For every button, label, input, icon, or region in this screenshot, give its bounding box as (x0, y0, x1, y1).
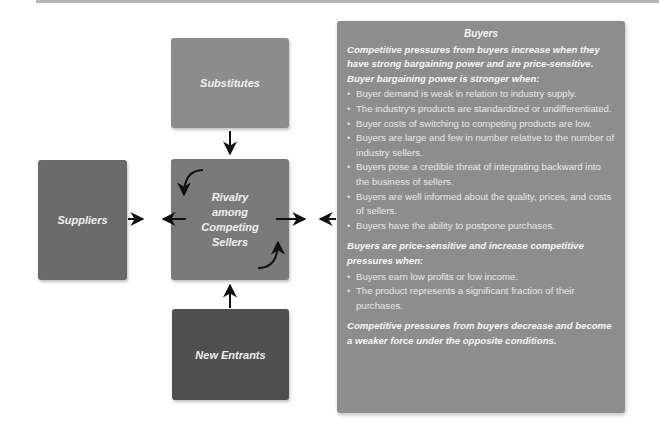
list-item: Buyers are large and few in number relat… (347, 131, 615, 160)
list-item: Buyer demand is weak in relation to indu… (347, 87, 615, 102)
substitutes-label: Substitutes (200, 77, 260, 89)
price-sensitive-heading: Buyers are price-sensitive and increase … (347, 239, 615, 268)
buyers-panel: Buyers Competitive pressures from buyers… (337, 21, 625, 413)
top-divider-bar (36, 0, 659, 3)
price-sensitive-list: Buyers earn low profits or low income. T… (347, 270, 615, 314)
list-item: Buyers have the ability to postpone purc… (347, 219, 615, 234)
list-item: Buyers earn low profits or low income. (347, 270, 615, 285)
list-item: The industry's products are standardized… (347, 102, 615, 117)
suppliers-label: Suppliers (57, 214, 107, 226)
new-entrants-box: New Entrants (172, 309, 289, 400)
list-item: The product represents a significant fra… (347, 284, 615, 313)
buyers-intro: Competitive pressures from buyers increa… (347, 43, 615, 87)
rivalry-box: Rivalry among Competing Sellers (171, 159, 289, 280)
list-item: Buyers are well informed about the quali… (347, 190, 615, 219)
new-entrants-label: New Entrants (195, 349, 265, 361)
buyers-title: Buyers (347, 27, 615, 42)
list-item: Buyer costs of switching to competing pr… (347, 117, 615, 132)
suppliers-box: Suppliers (38, 160, 127, 280)
rivalry-label: Rivalry among Competing Sellers (201, 190, 258, 250)
buyers-conclusion: Competitive pressures from buyers decrea… (347, 319, 615, 348)
bargaining-power-list: Buyer demand is weak in relation to indu… (347, 87, 615, 233)
list-item: Buyers pose a credible threat of integra… (347, 160, 615, 189)
substitutes-box: Substitutes (171, 38, 289, 128)
